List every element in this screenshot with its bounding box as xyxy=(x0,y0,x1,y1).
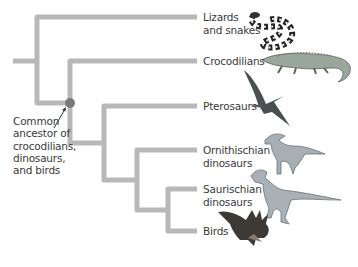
parasaurolophus-icon xyxy=(265,134,325,174)
taxon-label-birds: Birds xyxy=(203,225,228,238)
pterosaur-icon xyxy=(244,70,290,126)
branch-crocodilians xyxy=(70,61,197,143)
theropod-icon xyxy=(251,170,341,224)
taxon-label-lizards: Lizards and snakes xyxy=(203,11,260,36)
branch-pterosaurs xyxy=(104,106,197,180)
crocodile-icon xyxy=(262,53,350,82)
common-ancestor-node xyxy=(65,98,75,108)
taxon-label-ornithischian: Ornithischian dinosaurs xyxy=(203,144,270,169)
taxon-label-pterosaurs: Pterosaurs xyxy=(203,100,257,113)
taxon-label-crocodilians: Crocodilians xyxy=(203,55,265,68)
common-ancestor-label: Common ancestor of crocodilians, dinosau… xyxy=(13,115,76,176)
taxon-label-saurischian: Saurischian dinosaurs xyxy=(203,183,262,208)
branch-saurischian-birds xyxy=(168,189,197,231)
